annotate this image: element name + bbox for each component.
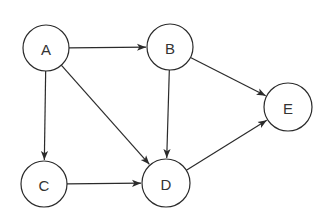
edge-b-to-e xyxy=(191,57,266,95)
edge-a-to-d xyxy=(61,65,149,164)
graph-diagram: ABCDE xyxy=(0,0,325,224)
edge-d-to-e xyxy=(186,120,266,170)
edge-c-to-d xyxy=(67,183,141,184)
node-label: C xyxy=(39,177,50,194)
nodes-layer: ABCDE xyxy=(21,24,312,207)
node-c: C xyxy=(21,161,67,207)
node-label: A xyxy=(41,41,51,58)
edge-a-to-c xyxy=(44,71,45,160)
node-b: B xyxy=(147,24,193,70)
edge-b-to-d xyxy=(167,70,170,158)
node-label: B xyxy=(165,40,175,57)
node-label: E xyxy=(283,100,293,117)
node-label: D xyxy=(161,176,172,193)
node-d: D xyxy=(142,159,190,207)
node-e: E xyxy=(264,83,312,131)
edge-a-to-b xyxy=(69,47,146,48)
node-a: A xyxy=(23,25,69,71)
graph-svg: ABCDE xyxy=(0,0,325,224)
